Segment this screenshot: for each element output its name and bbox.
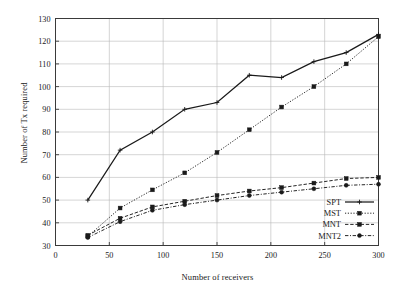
data-point-marker bbox=[344, 183, 348, 187]
data-point-marker bbox=[280, 190, 284, 194]
x-tick-label: 150 bbox=[211, 251, 223, 260]
data-point-marker bbox=[344, 62, 348, 66]
legend-sample-mnt2 bbox=[345, 234, 374, 238]
data-point-marker bbox=[312, 85, 316, 89]
data-point-marker bbox=[183, 203, 187, 207]
data-point-marker bbox=[86, 236, 90, 240]
legend-label-mnt: MNT bbox=[322, 220, 341, 229]
y-tick-label: 110 bbox=[39, 60, 51, 69]
y-tick-label: 100 bbox=[38, 83, 50, 92]
data-point-marker bbox=[118, 220, 122, 224]
y-tick-label: 120 bbox=[38, 37, 50, 46]
data-point-marker bbox=[118, 206, 122, 210]
y-tick-label: 90 bbox=[42, 105, 50, 114]
series-line bbox=[88, 34, 379, 200]
x-tick-label: 300 bbox=[372, 251, 384, 260]
x-tick-label: 50 bbox=[105, 251, 113, 260]
data-point-marker bbox=[151, 188, 155, 192]
x-tick-label: 200 bbox=[265, 251, 277, 260]
data-point-marker bbox=[358, 223, 362, 227]
data-point-marker bbox=[247, 194, 251, 198]
data-point-marker bbox=[377, 35, 381, 39]
legend-label-spt: SPT bbox=[327, 198, 341, 207]
data-point-marker bbox=[312, 187, 316, 191]
legend-sample-mst bbox=[345, 211, 374, 215]
data-point-marker bbox=[150, 208, 154, 212]
chart-legend: SPTMSTMNTMNT2 bbox=[318, 198, 374, 241]
data-point-marker bbox=[312, 181, 316, 185]
data-point-marker bbox=[247, 128, 251, 132]
data-point-marker bbox=[358, 234, 362, 238]
series-mst bbox=[86, 35, 381, 239]
data-point-marker bbox=[215, 194, 219, 198]
x-tick-label: 250 bbox=[319, 251, 331, 260]
data-point-marker bbox=[358, 211, 362, 215]
data-point-marker bbox=[215, 151, 219, 155]
data-point-marker bbox=[312, 59, 317, 64]
y-tick-label: 70 bbox=[42, 151, 50, 160]
y-axis-title: Number of Tx required bbox=[19, 53, 29, 193]
data-point-marker bbox=[280, 186, 284, 190]
legend-label-mnt2: MNT2 bbox=[318, 232, 341, 241]
x-axis-title: Number of receivers bbox=[55, 272, 380, 282]
legend-label-mst: MST bbox=[324, 209, 341, 218]
x-tick-label: 0 bbox=[53, 251, 57, 260]
y-tick-label: 60 bbox=[42, 173, 50, 182]
y-tick-label: 80 bbox=[42, 128, 50, 137]
data-point-marker bbox=[280, 105, 284, 109]
data-point-marker bbox=[377, 176, 381, 180]
plot-canvas: 3040506070809010011012013005010015020025… bbox=[0, 0, 408, 293]
data-point-marker bbox=[215, 198, 219, 202]
data-point-marker bbox=[377, 182, 381, 186]
data-point-marker bbox=[247, 189, 251, 193]
data-point-marker bbox=[344, 177, 348, 181]
y-tick-label: 50 bbox=[42, 196, 50, 205]
y-tick-label: 40 bbox=[42, 219, 50, 228]
x-tick-label: 100 bbox=[157, 251, 169, 260]
y-tick-label: 30 bbox=[42, 242, 50, 251]
chart-figure: 3040506070809010011012013005010015020025… bbox=[0, 0, 408, 293]
y-tick-label: 130 bbox=[38, 15, 50, 24]
series-spt bbox=[86, 32, 381, 202]
data-point-marker bbox=[279, 75, 284, 80]
data-point-marker bbox=[183, 171, 187, 175]
